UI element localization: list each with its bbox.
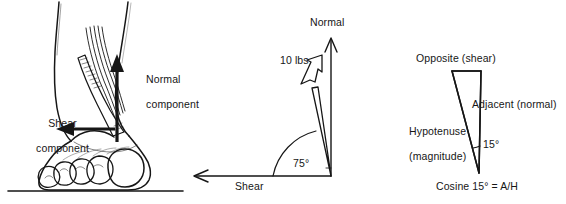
toenail-4 — [60, 169, 68, 171]
shear-component-label-line1: Shear — [48, 117, 77, 129]
toe-5 — [38, 166, 60, 187]
normal-axis-label: Normal — [310, 16, 344, 29]
hypotenuse-label-line2: (magnitude) — [409, 150, 466, 162]
figure-root: Normal component Shear component — [0, 0, 566, 204]
triangle-panel: Opposite (shear) Adjacent (normal) Hypot… — [385, 0, 566, 204]
shear-axis-label: Shear — [235, 180, 264, 193]
toenail-2 — [93, 165, 103, 167]
foot-anatomy-panel: Normal component Shear component — [0, 0, 190, 204]
load-magnitude-label: 10 lbs — [280, 54, 309, 67]
adjacent-side-label: Adjacent (normal) — [472, 98, 557, 111]
normal-component-label-line1: Normal — [146, 73, 180, 85]
shear-component-label-line2: component — [36, 142, 89, 154]
hypotenuse-label: Hypotenuse (magnitude) — [391, 112, 466, 175]
angle-75-label: 75° — [293, 157, 309, 170]
shear-component-label: Shear component — [18, 104, 89, 167]
hypotenuse-label-line1: Hypotenuse — [409, 125, 466, 137]
force-vector-panel: Normal 10 lbs 75° Shear — [185, 0, 385, 204]
toenail-3 — [76, 167, 85, 169]
adjacent-side — [479, 71, 481, 173]
cosine-equation-label: Cosine 15° = A/H — [436, 180, 518, 193]
toenail-5 — [45, 176, 53, 178]
angle-15-label: 15° — [483, 138, 499, 151]
opposite-side-label: Opposite (shear) — [416, 52, 496, 65]
force-vector-illustration — [185, 0, 385, 204]
